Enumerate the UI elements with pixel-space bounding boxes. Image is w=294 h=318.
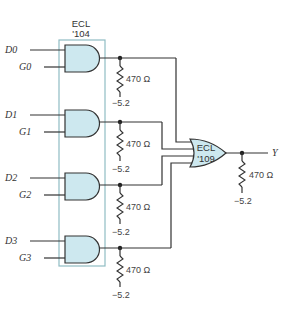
input-d3-label: D3 <box>4 235 17 246</box>
input-g1-label: G1 <box>19 126 31 137</box>
resistor-1-value: 470 Ω <box>126 139 151 149</box>
and-gate-2 <box>30 173 162 200</box>
output-resistor-supply: −5.2 <box>234 196 252 206</box>
output-resistor-value: 470 Ω <box>249 170 274 180</box>
output-resistor <box>239 153 245 193</box>
input-g2-label: G2 <box>19 189 31 200</box>
input-d1-label: D1 <box>4 109 17 120</box>
input-g0-label: G0 <box>19 61 31 72</box>
resistor-0 <box>117 58 123 97</box>
and-gate-1 <box>30 110 162 137</box>
resistor-1 <box>117 122 123 161</box>
ic-109-label-line2: '109 <box>197 153 215 164</box>
and-gate-0 <box>30 45 176 72</box>
or-input-wires <box>162 58 195 248</box>
resistor-0-supply: −5.2 <box>112 98 130 108</box>
resistor-2 <box>117 185 123 224</box>
resistor-2-value: 470 Ω <box>126 202 151 212</box>
input-d0-label: D0 <box>4 44 17 55</box>
resistor-2-supply: −5.2 <box>112 227 130 237</box>
resistor-3-supply: −5.2 <box>112 290 130 300</box>
input-d2-label: D2 <box>4 172 17 183</box>
resistor-1-supply: −5.2 <box>112 164 130 174</box>
resistor-3-value: 470 Ω <box>126 265 151 275</box>
resistor-0-value: 470 Ω <box>126 74 151 84</box>
resistor-3 <box>117 248 123 287</box>
ic-109-label-line1: ECL <box>197 142 215 153</box>
output-y-label: Y <box>272 147 279 158</box>
ecl-multiplexer-schematic: ECL '104 D0 G0 470 Ω −5.2 D1 G1 470 Ω −5… <box>0 0 294 318</box>
input-g3-label: G3 <box>19 252 31 263</box>
and-gate-3 <box>30 236 171 263</box>
ic-104-label-line2: '104 <box>72 28 90 39</box>
ic-104-outline <box>59 40 105 266</box>
